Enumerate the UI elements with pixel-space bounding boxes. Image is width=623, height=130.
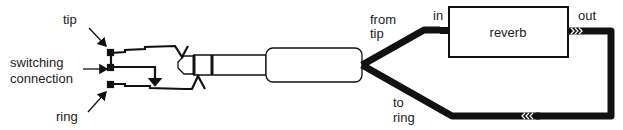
ring-return-cable <box>362 65 540 116</box>
switching-label: switching <box>10 55 63 70</box>
tip-terminal <box>108 50 113 55</box>
tip-label: tip <box>63 12 77 27</box>
ring-arrow-icon <box>88 92 106 112</box>
switch-arrowhead-icon <box>150 79 160 85</box>
in-connector <box>440 27 449 34</box>
tip-arrow-icon <box>89 28 106 46</box>
insert-cable-diagram: tip switching connection ring <box>0 0 623 130</box>
plug-body <box>266 48 362 82</box>
ring-label: ring <box>56 109 78 124</box>
out-label: out <box>578 8 596 23</box>
reverb-label: reverb <box>490 25 527 40</box>
pointer-arrows <box>83 28 107 112</box>
jack-socket <box>108 46 205 89</box>
to-ring-label: ring <box>393 110 415 125</box>
switch-terminal <box>108 65 113 70</box>
plug-shaft <box>193 55 266 75</box>
from-label: from <box>370 12 396 27</box>
connection-label: connection <box>10 71 73 86</box>
to-label: to <box>393 95 404 110</box>
tip-contact <box>111 46 188 57</box>
from-tip-label: tip <box>370 26 384 41</box>
in-label: in <box>433 8 443 23</box>
trs-plug <box>178 48 362 82</box>
in-chevrons-icon <box>430 28 441 32</box>
ring-terminal <box>108 82 113 87</box>
plug-tip <box>178 56 193 74</box>
